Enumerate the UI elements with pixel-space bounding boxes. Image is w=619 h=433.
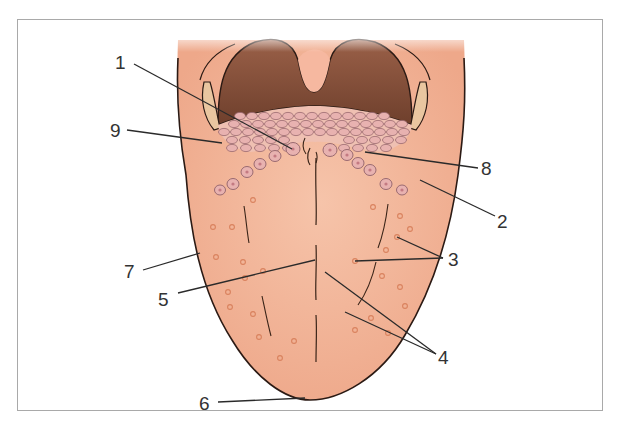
lingual-papilla: [343, 112, 354, 119]
label-3: 3: [448, 249, 459, 270]
lingual-papilla: [344, 136, 355, 143]
lingual-papilla: [231, 128, 242, 135]
lingual-papilla: [319, 112, 330, 119]
label-2: 2: [497, 211, 508, 232]
lingual-papilla: [325, 120, 336, 127]
lingual-papilla: [367, 144, 378, 151]
vallate-papilla-center: [231, 182, 234, 185]
lingual-papilla: [385, 120, 396, 127]
lingual-papilla: [253, 136, 264, 143]
vallate-papilla-center: [245, 170, 248, 173]
vallate-papilla-center: [258, 162, 261, 165]
lingual-papilla: [227, 144, 238, 151]
lingual-papilla: [313, 120, 324, 127]
lingual-papilla: [243, 128, 254, 135]
lingual-papilla: [387, 128, 398, 135]
lingual-papilla: [219, 128, 230, 135]
leader-6: [218, 398, 305, 402]
lingual-papilla: [375, 128, 386, 135]
vallate-papilla-center: [273, 154, 276, 157]
label-1: 1: [115, 52, 126, 73]
lingual-papilla: [227, 136, 238, 143]
vallate-papilla-center: [345, 153, 348, 156]
label-4: 4: [438, 347, 449, 368]
lingual-papilla: [339, 128, 350, 135]
lingual-papilla: [383, 136, 394, 143]
lingual-papilla: [247, 112, 258, 119]
lingual-papilla: [381, 144, 392, 151]
lingual-papilla: [271, 112, 282, 119]
vallate-papilla-center: [328, 148, 331, 151]
lingual-papilla: [259, 112, 270, 119]
label-8: 8: [481, 158, 492, 179]
lingual-papilla: [253, 120, 264, 127]
lingual-papilla: [267, 128, 278, 135]
label-9: 9: [110, 120, 121, 141]
top-fade: [170, 30, 470, 52]
vallate-papilla-center: [400, 188, 403, 191]
lingual-papilla: [367, 112, 378, 119]
vallate-papilla-center: [368, 168, 371, 171]
lingual-papilla: [229, 120, 240, 127]
lingual-papilla: [303, 128, 314, 135]
label-6: 6: [199, 393, 210, 414]
lingual-papilla: [397, 120, 408, 127]
lingual-papilla: [295, 112, 306, 119]
lingual-papilla: [373, 120, 384, 127]
lingual-papilla: [289, 120, 300, 127]
lingual-papilla: [277, 120, 288, 127]
lingual-papilla: [240, 136, 251, 143]
lingual-papilla: [301, 120, 312, 127]
lingual-papilla: [396, 136, 407, 143]
lingual-papilla: [265, 120, 276, 127]
lingual-papilla: [355, 112, 366, 119]
label-7: 7: [124, 261, 135, 282]
lingual-papilla: [291, 128, 302, 135]
lingual-papilla: [283, 112, 294, 119]
lingual-papilla: [315, 128, 326, 135]
lingual-papilla: [357, 136, 368, 143]
vallate-papilla-center: [218, 188, 221, 191]
lingual-papilla: [361, 120, 372, 127]
tongue-diagram: 1 2 3 4 5 6 7 8 9: [0, 0, 619, 433]
vallate-papilla-center: [356, 161, 359, 164]
lingual-papilla: [255, 144, 266, 151]
lingual-papilla: [370, 136, 381, 143]
lingual-papilla: [241, 144, 252, 151]
lingual-papilla: [349, 120, 360, 127]
lingual-papilla: [363, 128, 374, 135]
vallate-papilla-center: [384, 182, 387, 185]
lingual-papilla: [351, 128, 362, 135]
lingual-papilla: [399, 128, 410, 135]
label-5: 5: [158, 289, 169, 310]
lingual-papilla: [353, 144, 364, 151]
lingual-papilla: [379, 112, 390, 119]
lingual-papilla: [327, 128, 338, 135]
leader-7: [143, 253, 200, 270]
lingual-papilla: [279, 128, 290, 135]
lingual-papilla: [307, 112, 318, 119]
lingual-papilla: [331, 112, 342, 119]
lingual-papilla: [337, 120, 348, 127]
